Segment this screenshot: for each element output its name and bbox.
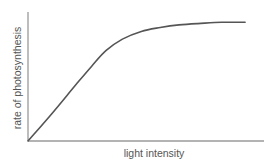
chart: rate of photosynthesis light intensity	[0, 0, 275, 166]
chart-plot	[0, 0, 275, 166]
x-axis-label: light intensity	[124, 147, 185, 159]
photosynthesis-curve	[28, 22, 245, 141]
y-axis-label: rate of photosynthesis	[11, 27, 23, 130]
